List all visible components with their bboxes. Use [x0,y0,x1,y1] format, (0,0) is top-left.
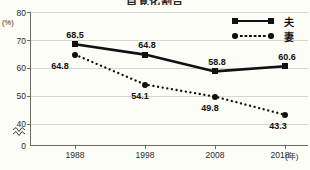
chart-title-clipped: 自覚化割合 [0,0,310,5]
label-wife-1988: 64.8 [40,61,80,71]
legend-key-wife [230,28,280,43]
y-axis-unit: (%) [2,18,28,27]
legend: 夫 妻 [230,13,304,43]
x-tick-1998: 1998 [123,150,167,160]
series-husband-line [75,44,285,71]
y-tick-60: 60 [2,63,26,73]
x-tick-1988: 1988 [53,150,97,160]
point-husband-2018[interactable] [282,63,288,69]
x-tickmark-2008 [215,146,216,149]
y-axis-break-icon [11,126,29,137]
label-wife-2008: 49.8 [190,103,230,113]
x-axis-unit: (年) [285,150,298,161]
x-tickmark-1988 [75,146,76,149]
label-wife-1998: 54.1 [120,91,160,101]
x-tickmark-2018 [285,146,286,149]
x-tickmark-1998 [145,146,146,149]
point-wife-2008[interactable] [212,94,218,100]
legend-item-husband[interactable]: 夫 [230,13,304,28]
point-husband-1988[interactable] [72,41,78,47]
point-husband-2008[interactable] [212,68,218,74]
point-wife-2018[interactable] [282,112,288,118]
x-tick-2008: 2008 [193,150,237,160]
y-tick-70: 70 [2,36,26,46]
point-husband-1998[interactable] [142,52,148,58]
chart-title-text: 自覚化割合 [126,0,184,5]
point-wife-1998[interactable] [142,82,148,88]
chart-container: 自覚化割合 80 (%) 70 60 50 40 0 [0,0,310,170]
label-husband-1988: 68.5 [55,30,95,40]
label-husband-1998: 64.8 [127,40,167,50]
point-wife-1988[interactable] [72,52,78,58]
y-tick-50: 50 [2,91,26,101]
legend-key-husband [230,13,280,28]
label-husband-2018: 60.6 [267,52,307,62]
y-tick-zero: 0 [2,141,26,151]
legend-label-wife: 妻 [284,29,294,44]
legend-label-husband: 夫 [284,14,294,29]
label-wife-2018: 43.3 [258,121,298,131]
label-husband-2008: 58.8 [197,57,237,67]
y-tick-80: 80 [2,8,26,18]
legend-item-wife[interactable]: 妻 [230,28,304,43]
